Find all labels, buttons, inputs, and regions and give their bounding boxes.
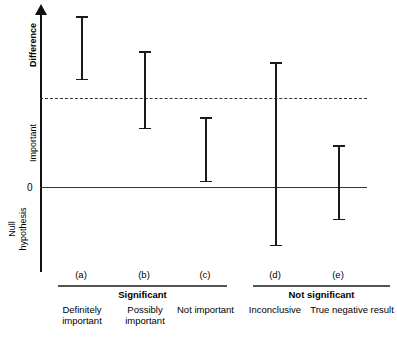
error-bar-a-upper-cap	[76, 16, 89, 18]
group-rule-significant	[58, 285, 227, 287]
y-axis-label-null-hypothesis: Nullhypothesis	[7, 189, 29, 269]
y-axis-line	[40, 14, 42, 272]
error-bar-e-upper-cap	[333, 145, 346, 147]
error-bar-e-lower-cap	[333, 219, 346, 221]
error-bar-a	[81, 16, 83, 80]
error-bar-e	[338, 145, 340, 220]
error-bar-b	[144, 51, 146, 129]
error-bar-b-upper-cap	[139, 51, 152, 53]
error-bar-d-upper-cap	[270, 62, 283, 64]
error-bar-a-lower-cap	[76, 79, 89, 81]
error-bar-d	[275, 62, 277, 246]
error-bar-d-lower-cap	[270, 245, 283, 247]
error-bar-e-stem	[338, 145, 340, 220]
marker-label-c: (c)	[175, 269, 235, 280]
category-label-a: Definitely important	[47, 304, 117, 326]
group-label-significant: Significant	[58, 289, 227, 300]
category-label-d: Inconclusive	[237, 304, 313, 315]
category-label-e: True negative result	[310, 304, 394, 315]
error-bar-c	[205, 117, 207, 182]
y-axis-label-important: Important	[28, 103, 38, 183]
group-label-not-significant: Not significant	[253, 289, 390, 300]
error-bar-d-stem	[275, 62, 277, 246]
marker-label-a: (a)	[51, 269, 111, 280]
error-bar-c-upper-cap	[200, 117, 213, 119]
category-label-b: Possibly important	[110, 304, 180, 326]
error-bar-c-lower-cap	[200, 181, 213, 183]
category-label-c: Not important	[173, 304, 238, 315]
marker-label-b: (b)	[114, 269, 174, 280]
error-bar-a-stem	[81, 16, 83, 80]
marker-label-e: (e)	[308, 269, 368, 280]
error-bar-c-stem	[205, 117, 207, 182]
error-bar-b-lower-cap	[139, 128, 152, 130]
y-axis-label-difference: Difference	[28, 10, 38, 80]
error-bar-chart: Difference Important 0 Nullhypothesis (a…	[0, 0, 397, 337]
important-difference-threshold-line	[40, 98, 367, 99]
error-bar-b-stem	[144, 51, 146, 129]
null-hypothesis-zero-line	[40, 187, 367, 188]
marker-label-d: (d)	[245, 269, 305, 280]
group-rule-not-significant	[253, 285, 390, 287]
